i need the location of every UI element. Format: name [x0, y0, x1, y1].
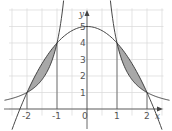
grid	[9, 8, 164, 115]
y-tick-label: 3	[80, 55, 86, 65]
function-plot: -2-101212345xy	[0, 0, 172, 131]
x-tick-label: 1	[114, 111, 120, 121]
y-tick-label: 4	[80, 38, 86, 48]
y-tick-label: 2	[80, 71, 86, 81]
x-axis-label: x	[155, 111, 160, 121]
y-tick-label: 5	[80, 22, 86, 32]
x-tick-label: -1	[52, 111, 61, 121]
y-tick-label: 1	[80, 88, 86, 98]
y-axis-label: y	[78, 9, 85, 19]
x-tick-label: 0	[82, 111, 88, 121]
y-axis-arrow-icon	[85, 10, 90, 16]
x-tick-label: 2	[144, 111, 150, 121]
x-tick-label: -2	[22, 111, 31, 121]
